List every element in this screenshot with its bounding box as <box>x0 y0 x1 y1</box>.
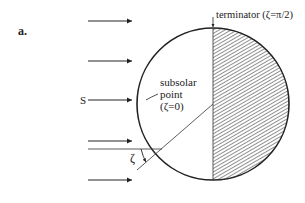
angle-label: ζ <box>130 152 135 164</box>
zenith-angle-arc <box>141 149 146 162</box>
subsolar-pointer <box>146 94 158 100</box>
source-label: S <box>80 94 86 106</box>
night-hemisphere <box>213 28 289 180</box>
diagram-canvas <box>0 0 305 203</box>
subsolar-label-line1: subsolar <box>160 76 197 88</box>
terminator-label: terminator (ζ=π/2) <box>216 9 293 21</box>
subsolar-label-line2: point <box>160 88 183 100</box>
subsolar-label-line3: (ζ=0) <box>160 100 184 112</box>
surface-normal-line <box>137 104 213 170</box>
panel-label: a. <box>18 25 27 37</box>
